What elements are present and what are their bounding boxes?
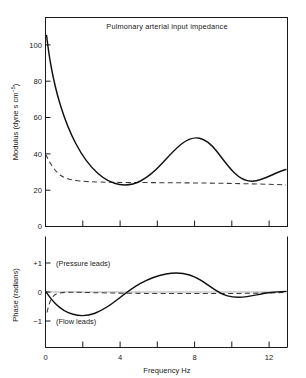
chart-title: Pulmonary arterial input impedance <box>106 22 227 31</box>
phase-dashed-curve <box>47 292 286 312</box>
phase-solid-curve <box>46 273 286 316</box>
xtick-0: 0 <box>43 353 47 362</box>
x-tick-labels: 0 4 8 12 <box>43 353 273 362</box>
flow-leads-annotation: (Flow leads) <box>56 317 96 326</box>
phase-ytick-plus1: +1 <box>33 259 42 268</box>
phase-ytick-zero: 0 <box>38 288 42 297</box>
x-axis-label: Frequency Hz <box>143 366 190 375</box>
modulus-ytick-40: 40 <box>34 150 42 159</box>
modulus-panel <box>46 18 288 227</box>
modulus-ytick-20: 20 <box>34 186 42 195</box>
phase-ytick-minus1: −1 <box>33 317 42 326</box>
modulus-ytick-0: 0 <box>38 222 42 231</box>
phase-x-ticks <box>46 342 270 348</box>
svg-text:Modulus (dyne s cm−5): Modulus (dyne s cm−5) <box>10 83 20 160</box>
modulus-ytick-80: 80 <box>34 77 42 86</box>
impedance-figure: 0 20 40 60 80 100 Pulmonary arterial inp… <box>0 0 306 378</box>
xtick-8: 8 <box>192 353 196 362</box>
phase-axis-label: Phase (radians) <box>11 268 20 322</box>
modulus-axis-label: Modulus (dyne s cm−5) <box>10 83 20 160</box>
phase-panel <box>46 237 288 348</box>
modulus-ytick-100: 100 <box>29 41 42 50</box>
modulus-panel-frame <box>46 18 288 227</box>
phase-y-tick-labels: +1 0 −1 <box>33 259 42 326</box>
impedance-chart-svg: 0 20 40 60 80 100 Pulmonary arterial inp… <box>0 0 306 378</box>
phase-axis-label-text: Phase (radians) <box>11 268 20 322</box>
xtick-12: 12 <box>265 353 273 362</box>
xtick-4: 4 <box>118 353 122 362</box>
pressure-leads-annotation: (Pressure leads) <box>56 259 110 268</box>
modulus-axis-label-main: Modulus (dyne s cm <box>11 92 20 160</box>
modulus-y-tick-labels: 0 20 40 60 80 100 <box>29 41 42 232</box>
modulus-ytick-60: 60 <box>34 113 42 122</box>
modulus-axis-label-close: ) <box>11 83 20 86</box>
